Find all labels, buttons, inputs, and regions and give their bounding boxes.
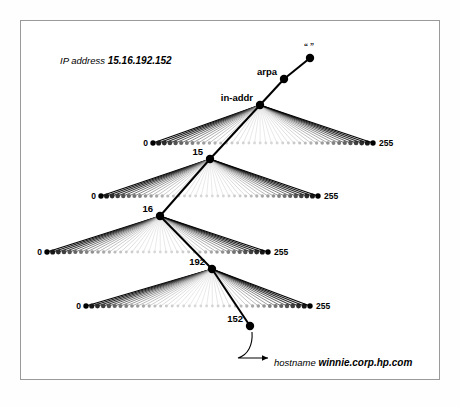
fan-leaf-node xyxy=(107,304,111,308)
fan-edge xyxy=(166,269,212,306)
fan-edge xyxy=(115,216,160,252)
fan-leaf-node xyxy=(261,194,264,197)
path-edge xyxy=(284,58,310,79)
fan-leaf-node xyxy=(155,194,158,197)
fan-leaf-node xyxy=(56,250,61,255)
fan-leaf-node xyxy=(142,304,145,307)
fan-leaf-node xyxy=(159,304,162,307)
fan-edge xyxy=(168,159,210,196)
fan-leaf-node xyxy=(165,305,168,308)
range-start-label: 0 xyxy=(37,247,42,257)
fan-leaf-node xyxy=(176,251,179,254)
fan-layer: 0255025502550255 xyxy=(37,105,393,311)
fan-leaf-node xyxy=(293,142,296,145)
fan-leaf-node xyxy=(148,251,151,254)
fan-leaf-node xyxy=(216,195,219,198)
fan-leaf-node xyxy=(265,249,270,254)
fan-leaf-node xyxy=(370,140,375,145)
fan-leaf-node xyxy=(132,194,136,198)
path-node-label-15: 15 xyxy=(192,146,203,157)
fan-leaf-node xyxy=(96,250,100,254)
hostname-annotation-prefix: hostname xyxy=(274,357,318,368)
fan-leaf-node xyxy=(159,251,162,254)
fan-leaf-node xyxy=(142,251,145,254)
fan-leaf-node xyxy=(166,194,169,197)
fan-leaf-node xyxy=(183,195,186,198)
fan-leaf-node xyxy=(191,141,195,145)
fan-leaf-node xyxy=(136,251,139,254)
fan-leaf-node xyxy=(118,304,122,308)
fan-leaf-node xyxy=(124,304,128,308)
fan-leaf-node xyxy=(149,194,153,198)
fan-leaf-node xyxy=(320,141,324,145)
range-start-label: 0 xyxy=(143,138,148,148)
fan-leaf-node xyxy=(211,195,214,198)
hostname-pointer-curve xyxy=(238,332,268,358)
fan-leaf-node xyxy=(91,250,95,254)
fan-leaf-node xyxy=(171,305,174,308)
fan-leaf-node xyxy=(176,305,179,308)
fan-leaf-node xyxy=(233,195,236,198)
fan-leaf-node xyxy=(279,304,283,308)
fan-leaf-node xyxy=(262,304,266,308)
fan-leaf-node xyxy=(161,194,164,197)
fan-leaf-node xyxy=(272,194,276,198)
fan-leaf-node xyxy=(189,195,192,198)
fan-leaf-node xyxy=(226,250,230,254)
path-node-arpa xyxy=(280,75,288,83)
fan-leaf-node xyxy=(270,142,273,145)
fan-leaf-node xyxy=(62,250,67,255)
fan-leaf-node xyxy=(127,194,131,198)
fan-leaf-node xyxy=(244,194,247,197)
fan-leaf-node xyxy=(85,250,89,254)
fan-leaf-node xyxy=(239,195,242,198)
fan-leaf-node xyxy=(102,250,105,253)
fan-leaf-node xyxy=(250,194,253,197)
fan-leaf-node xyxy=(89,303,94,308)
path-edge xyxy=(210,105,260,159)
ip-address-caption: IP address 15.16.192.152 xyxy=(60,50,172,68)
fan-leaf-node xyxy=(259,142,262,145)
fan-leaf-node xyxy=(172,194,175,197)
fan-leaf-node xyxy=(144,194,148,198)
fan-leaf-node xyxy=(211,305,214,308)
fan-leaf-node xyxy=(67,250,71,254)
fan-leaf-node xyxy=(79,250,83,254)
fan-leaf-node xyxy=(199,305,202,308)
fan-leaf-node xyxy=(119,250,122,253)
range-end-label: 255 xyxy=(324,191,338,201)
fan-leaf-node xyxy=(83,303,88,308)
fan-leaf-node xyxy=(168,141,173,146)
fan-leaf-node xyxy=(257,304,261,308)
path-node-root xyxy=(306,54,314,62)
fan-leaf-node xyxy=(136,304,140,308)
path-node-15 xyxy=(206,155,214,163)
hostname-annotation-value: winnie.corp.hp.com xyxy=(318,357,412,368)
path-node-label-arpa: arpa xyxy=(257,66,278,77)
fan-leaf-node xyxy=(150,140,155,145)
fan-leaf-node xyxy=(182,251,185,254)
fan-leaf-node xyxy=(245,304,248,307)
fan-leaf-node xyxy=(208,141,211,144)
dns-reverse-lookup-figure: 0255025502550255 “ ”arpain-addr151619215… xyxy=(0,0,460,407)
path-node-label-16: 16 xyxy=(142,203,153,214)
fan-leaf-node xyxy=(247,142,250,145)
fan-leaf-node xyxy=(179,141,183,145)
path-node-16 xyxy=(156,212,164,220)
fan-leaf-node xyxy=(200,195,203,198)
fan-leaf-node xyxy=(194,305,197,308)
fan-leaf-node xyxy=(113,304,117,308)
fan-leaf-node xyxy=(315,141,318,144)
fan-leaf-node xyxy=(307,303,312,308)
fan-leaf-node xyxy=(198,250,201,253)
fan-leaf-node xyxy=(104,193,109,198)
fan-leaf-node xyxy=(153,304,156,307)
fan-leaf-node xyxy=(115,194,120,199)
fan-leaf-node xyxy=(101,304,106,309)
fan-leaf-node xyxy=(185,141,189,145)
fan-leaf-node xyxy=(277,194,281,198)
path-node-label-152: 152 xyxy=(227,313,243,324)
fan-leaf-node xyxy=(125,251,128,254)
fan-leaf-node xyxy=(228,305,231,308)
fan-leaf-node xyxy=(287,142,290,145)
